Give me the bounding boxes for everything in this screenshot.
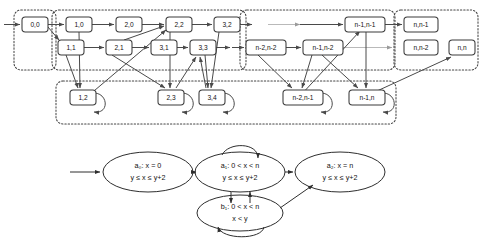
region-node-label: n,n (457, 44, 466, 51)
automaton-state-line2: y ≤ x ≤ y+2 (323, 173, 358, 182)
automaton-state[interactable]: a₀: x = 0y ≤ x ≤ y+2 (103, 152, 193, 192)
region-node-label: 2,1 (114, 44, 123, 51)
region-node-label: 2,3 (166, 94, 175, 101)
region-node[interactable]: n,n-1 (404, 17, 438, 32)
region-node[interactable]: n-2,n-1 (283, 90, 323, 105)
region-node-label: 0,0 (30, 21, 39, 28)
automaton-state-line2: y ≤ x ≤ y+2 (131, 173, 166, 182)
automaton-state-line1: a₂: x = n (327, 161, 354, 170)
automaton-state-line1: a₀: x = 0 (135, 161, 162, 170)
region-node-label: 3,2 (222, 21, 231, 28)
automaton-state-line1: b₁: 0 < x < n (221, 202, 259, 211)
region-node[interactable]: n,n-2 (404, 40, 438, 55)
automaton-state-line1: a₁: 0 < x < n (221, 161, 259, 170)
automaton-state[interactable]: b₁: 0 < x < nx < y (197, 195, 283, 231)
region-node-label: 1,2 (78, 94, 87, 101)
edge-2-3-up-to-3-3 (176, 57, 196, 88)
region-node-label: 1,1 (66, 44, 75, 51)
edge-n-1-n-2-to-n-2-n-1 (302, 55, 312, 88)
region-node[interactable]: 2,3 (158, 90, 184, 105)
edge-b1-to-a2 (280, 185, 313, 208)
region-node-label: n-2,n-1 (293, 94, 314, 101)
group-box-absorbing (56, 81, 396, 124)
figure-canvas: 0,01,02,02,23,21,12,13,13,3n-1,n-1n-2,n-… (0, 0, 490, 249)
region-node-label: 1,0 (74, 21, 83, 28)
region-node[interactable]: 3,4 (199, 90, 225, 105)
region-node-label: 2,2 (174, 21, 183, 28)
region-node[interactable]: 1,2 (70, 90, 96, 105)
edge-2-1-to-2-3 (112, 55, 165, 88)
region-graph-nodes: 0,01,02,02,23,21,12,13,13,3n-1,n-1n-2,n-… (22, 17, 475, 105)
region-node[interactable]: n-2,n-2 (246, 40, 286, 55)
region-node[interactable]: 2,1 (106, 40, 132, 55)
region-node[interactable]: 3,2 (214, 17, 240, 32)
region-node-label: n,n-1 (413, 21, 428, 28)
edge-n-1-n-2-to-n-1-n (322, 55, 358, 88)
region-node-label: 3,3 (198, 44, 207, 51)
region-node[interactable]: n-1,n (349, 90, 385, 105)
region-node-label: n-1,n-2 (313, 44, 334, 51)
region-node-label: n-1,n-1 (355, 21, 376, 28)
region-node-label: 2,0 (124, 21, 133, 28)
edge-n-1-n-to-n-n (377, 57, 451, 91)
region-node-label: 3,1 (159, 44, 168, 51)
region-node-label: n,n-2 (413, 44, 428, 51)
edge-n-2-n-2-to-n-2-n-1 (258, 55, 292, 88)
region-node[interactable]: n,n (449, 40, 475, 55)
edge-3-4-up-to-3-3 (200, 57, 206, 88)
region-node-label: 3,4 (207, 94, 216, 101)
self-loop-b1 (218, 227, 264, 237)
edge-1-1-to-1-2 (66, 55, 78, 88)
automaton-state[interactable]: a₁: 0 < x < ny ≤ x ≤ y+2 (195, 152, 285, 192)
region-graph-edges (4, 25, 451, 97)
automaton-state-line2: x < y (232, 214, 248, 223)
region-node[interactable]: 3,3 (190, 40, 216, 55)
region-node-label: n-2,n-2 (256, 44, 277, 51)
region-node[interactable]: 2,2 (166, 17, 192, 32)
region-node[interactable]: 1,0 (66, 17, 92, 32)
automaton-state[interactable]: a₂: x = ny ≤ x ≤ y+2 (295, 152, 385, 192)
region-node[interactable]: n-1,n-2 (303, 40, 343, 55)
region-node[interactable]: 0,0 (22, 17, 48, 32)
edge-0-0-to-1-1 (48, 27, 59, 40)
region-node-label: n-1,n (359, 94, 374, 101)
automaton-state-line2: y ≤ x ≤ y+2 (223, 173, 258, 182)
figure-root: 0,01,02,02,23,21,12,13,13,3n-1,n-1n-2,n-… (0, 0, 490, 249)
region-node[interactable]: 1,1 (58, 40, 84, 55)
timed-automaton-states: a₀: x = 0y ≤ x ≤ y+2a₁: 0 < x < ny ≤ x ≤… (103, 152, 385, 231)
region-node[interactable]: n-1,n-1 (345, 17, 385, 32)
region-node[interactable]: 3,1 (151, 40, 177, 55)
region-node[interactable]: 2,0 (116, 17, 142, 32)
